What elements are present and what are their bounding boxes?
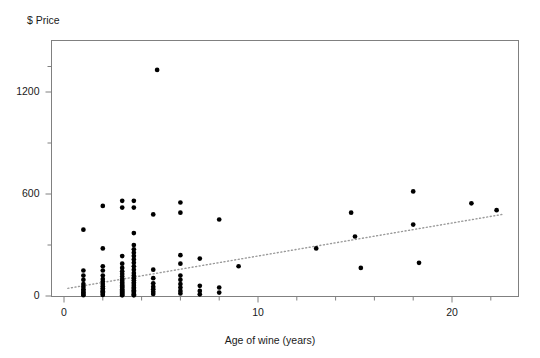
data-point	[178, 273, 183, 278]
data-point	[131, 205, 136, 210]
data-point	[353, 234, 358, 239]
data-point	[178, 210, 183, 215]
data-point	[120, 254, 125, 259]
data-point	[411, 222, 416, 227]
data-point	[100, 264, 105, 269]
data-point	[358, 266, 363, 271]
data-point	[314, 246, 319, 251]
data-point	[131, 198, 136, 203]
data-point	[494, 208, 499, 213]
y-tick-label: 600	[0, 187, 40, 199]
data-point	[81, 278, 86, 283]
y-tick-label: 0	[0, 289, 40, 301]
data-point	[81, 273, 86, 278]
y-tick-label: 1200	[0, 85, 40, 97]
data-point	[131, 243, 136, 248]
data-point	[155, 68, 160, 73]
data-point	[81, 268, 86, 273]
data-point	[100, 204, 105, 209]
data-point	[81, 227, 86, 232]
data-point	[100, 268, 105, 273]
data-point	[349, 210, 354, 215]
x-tick-label: 20	[432, 306, 472, 318]
data-point	[469, 201, 474, 206]
data-point	[411, 189, 416, 194]
data-point	[131, 293, 136, 298]
data-point	[120, 198, 125, 203]
data-point	[131, 231, 136, 236]
data-point	[197, 283, 202, 288]
data-point	[151, 267, 156, 272]
data-point	[100, 293, 105, 298]
data-point	[236, 264, 241, 269]
data-point	[178, 261, 183, 266]
data-point	[178, 253, 183, 258]
x-tick-label: 10	[238, 306, 278, 318]
x-tick-label: 0	[44, 306, 84, 318]
data-point	[417, 261, 422, 266]
data-point	[178, 200, 183, 205]
data-point	[151, 292, 156, 297]
data-point	[81, 293, 86, 298]
scatter-plot-figure: $ Price Age of wine (years) 060012000102…	[0, 0, 540, 358]
data-point	[120, 293, 125, 298]
data-point	[151, 212, 156, 217]
data-point	[120, 261, 125, 266]
data-point	[197, 292, 202, 297]
data-point	[178, 278, 183, 283]
data-point-group	[81, 68, 499, 298]
data-point	[120, 205, 125, 210]
data-point	[100, 246, 105, 251]
plot-canvas	[0, 0, 540, 358]
data-point	[217, 285, 222, 290]
data-point	[151, 276, 156, 281]
data-point	[197, 256, 202, 261]
data-point	[217, 290, 222, 295]
data-point	[217, 217, 222, 222]
data-point	[178, 291, 183, 296]
